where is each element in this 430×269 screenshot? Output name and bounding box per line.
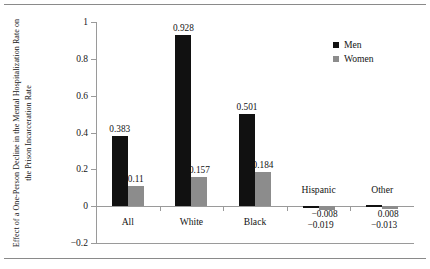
y-axis-title-container: Effect of a One-Person Decline in the Me… xyxy=(0,14,46,252)
y-axis-tick xyxy=(91,133,96,134)
y-axis-tick xyxy=(91,169,96,170)
y-axis-title: Effect of a One-Person Decline in the Me… xyxy=(11,17,34,249)
bar-other-women[interactable] xyxy=(382,206,398,208)
x-axis-tick xyxy=(287,206,288,211)
bar-white-women[interactable] xyxy=(191,177,207,206)
bar-value-label: −0.019 xyxy=(308,220,334,230)
y-axis-tick-label: 0.6 xyxy=(76,91,88,101)
bar-black-women[interactable] xyxy=(255,172,271,206)
y-axis-tick-label: 0.2 xyxy=(76,164,88,174)
legend-swatch-women-icon xyxy=(333,56,339,62)
bar-value-label: 0.501 xyxy=(237,102,258,112)
x-axis-category-label-white: White xyxy=(180,216,203,227)
bar-white-men[interactable] xyxy=(175,35,191,206)
legend-swatch-men-icon xyxy=(333,42,339,48)
bar-other-men[interactable] xyxy=(366,205,382,207)
figure-rule-top xyxy=(4,4,426,5)
legend-label-men: Men xyxy=(344,39,362,50)
bar-hispanic-men[interactable] xyxy=(303,206,319,208)
x-axis-tick xyxy=(350,206,351,211)
y-axis-tick xyxy=(91,59,96,60)
bar-value-label: 0.157 xyxy=(189,165,210,175)
x-axis-category-label-other: Other xyxy=(371,184,393,195)
y-axis-tick xyxy=(91,206,96,207)
x-axis-category-label-black: Black xyxy=(244,216,266,227)
chart-legend: Men Women xyxy=(333,38,374,66)
y-axis-tick xyxy=(91,96,96,97)
bar-value-label: −0.013 xyxy=(371,220,397,230)
y-axis-tick-label: 0.4 xyxy=(76,128,88,138)
figure-rule-bottom xyxy=(4,258,426,259)
figure-container: Effect of a One-Person Decline in the Me… xyxy=(0,0,430,269)
x-axis-category-label-hispanic: Hispanic xyxy=(302,184,336,195)
bar-value-label: 0.383 xyxy=(109,124,130,134)
legend-item-men: Men xyxy=(333,38,374,51)
bar-value-label: −0.008 xyxy=(312,209,338,219)
bar-value-label: 0.184 xyxy=(253,160,274,170)
y-axis-tick-label: 0 xyxy=(83,201,88,211)
y-axis-line xyxy=(96,22,97,243)
y-axis-tick xyxy=(91,22,96,23)
x-axis-tick xyxy=(223,206,224,211)
x-axis-category-label-all: All xyxy=(122,216,134,227)
y-axis-tick xyxy=(91,243,96,244)
bar-value-label: 0.11 xyxy=(128,174,144,184)
bar-all-men[interactable] xyxy=(112,136,128,207)
bar-hispanic-women[interactable] xyxy=(319,206,335,209)
x-axis-bottom-line xyxy=(96,243,414,244)
x-axis-tick xyxy=(160,206,161,211)
bar-value-label: 0.928 xyxy=(173,23,194,33)
bar-value-label: 0.008 xyxy=(378,209,399,219)
legend-item-women: Women xyxy=(333,52,374,65)
bar-all-women[interactable] xyxy=(128,186,144,206)
legend-label-women: Women xyxy=(344,53,374,64)
y-axis-tick-label: 1 xyxy=(83,17,88,27)
y-axis-tick-label: −0.2 xyxy=(71,238,88,248)
y-axis-tick-label: 0.8 xyxy=(76,54,88,64)
